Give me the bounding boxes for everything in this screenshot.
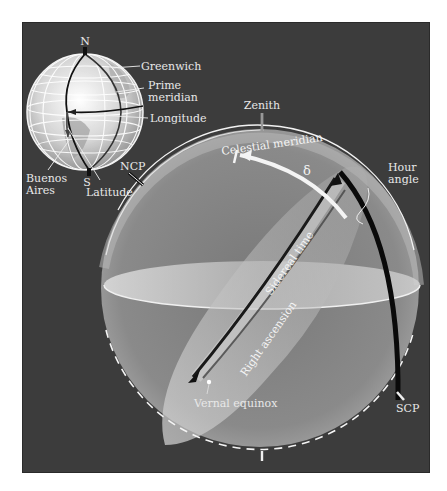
greenwich-label: Greenwich: [141, 60, 201, 73]
vernal-equinox-label: Vernal equinox: [193, 397, 278, 410]
zenith-label: Zenith: [244, 99, 280, 112]
north-label: N: [80, 35, 90, 48]
south-pole-tick: [87, 168, 91, 176]
scp-label: SCP: [396, 402, 420, 415]
celestial-sphere: Zenith NCP SCP Celestial meridian δ Hour…: [101, 99, 420, 461]
ncp-label: NCP: [120, 160, 146, 173]
north-pole-tick: [83, 47, 87, 55]
hour-angle-label-2: angle: [388, 173, 419, 186]
celestial-coordinates-diagram: N S Greenwich Prime meridian Longitude B…: [0, 0, 447, 491]
declination-symbol: δ: [303, 163, 311, 178]
buenos-aires-label-2: Aires: [25, 184, 55, 197]
prime-meridian-label-2: meridian: [148, 91, 198, 104]
longitude-label: Longitude: [150, 112, 207, 125]
vernal-equinox-point: [207, 380, 211, 384]
